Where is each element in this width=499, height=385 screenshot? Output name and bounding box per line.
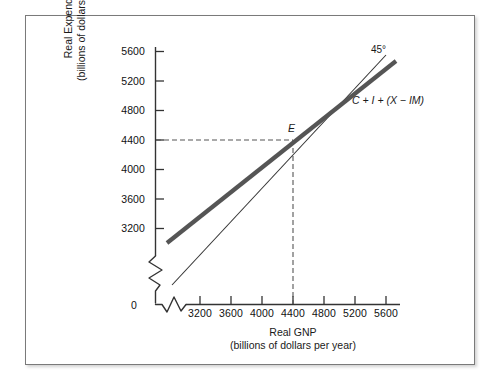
x-tick-label-5600: 5600 [374,307,398,319]
y-tick-label-4800: 4800 [101,104,145,116]
y-tick-label-5200: 5200 [101,75,145,87]
x-tick-label-4000: 4000 [250,307,274,319]
expenditure-schedule-label: C + I + (X − IM) [352,94,424,106]
forty-five-degree-line-label: 45° [371,44,386,55]
y-tick-label-4400: 4400 [101,134,145,146]
x-tick-label-4800: 4800 [312,307,336,319]
y-tick-label-3200: 3200 [101,222,145,234]
x-tick-label-3600: 3600 [219,307,243,319]
y-axis-title: Real Expenditure (billions of dollars pe… [62,0,88,98]
x-axis-title-main: Real GNP [269,326,316,338]
x-tick-label-5200: 5200 [343,307,367,319]
y-tick-label-5600: 5600 [101,45,145,57]
x-tick-label-4400: 4400 [281,307,305,319]
y-tick-label-3600: 3600 [101,193,145,205]
x-axis-title-sub: (billions of dollars per year) [193,339,393,352]
equilibrium-point-label: E [288,122,295,134]
origin-label: 0 [131,299,137,311]
y-tick-label-4000: 4000 [101,163,145,175]
y-axis-title-sub: (billions of dollars per year) [75,0,88,98]
x-axis-title: Real GNP (billions of dollars per year) [193,326,393,352]
y-axis-title-main: Real Expenditure [62,0,74,58]
x-tick-label-3200: 3200 [188,307,212,319]
